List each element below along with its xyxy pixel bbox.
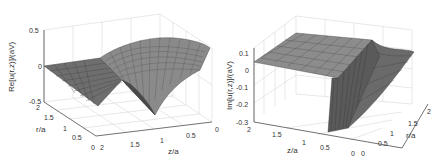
- r-tick: 2: [427, 108, 431, 115]
- z-tick: -0.1: [236, 84, 248, 91]
- z-tick: -0.2: [236, 101, 248, 108]
- r-tick: 0.5: [72, 134, 82, 141]
- im-surface-plot: 0.1 0 -0.1 -0.2 -0.3 Im[u(r,z)]/(aV) 2 1…: [220, 0, 440, 164]
- z-tick: 0.1: [239, 50, 249, 57]
- za-tick: 1.5: [272, 131, 282, 138]
- z-tick: 0: [38, 63, 42, 70]
- r-tick: 0.5: [378, 140, 388, 147]
- z-tick: 0.5: [29, 27, 39, 34]
- z-tick: 0: [245, 67, 249, 74]
- re-surface-plot: 0.5 0 -0.5 Re[u(r,z)]/(aV) 2 1.5 1 0.5 0…: [0, 0, 220, 164]
- r-axis-label: r/a: [36, 126, 45, 134]
- r-tick: 1.5: [44, 114, 54, 121]
- za-tick: 1: [160, 137, 164, 144]
- za-axis-label: z/a: [168, 148, 179, 156]
- za-tick: 0.5: [320, 144, 330, 151]
- za-tick: 1.5: [130, 141, 140, 148]
- r-tick: 2: [36, 104, 40, 111]
- r-tick: 1: [390, 130, 394, 137]
- za-tick: 2: [100, 144, 104, 151]
- r-tick: 0: [361, 150, 365, 157]
- r-tick: 1.5: [408, 120, 418, 127]
- r-axis-label: r/a: [406, 132, 415, 140]
- za-tick: 0.5: [186, 132, 196, 139]
- za-tick: 0: [215, 126, 219, 133]
- z-axis-label: Re[u(r,z)]/(aV): [8, 42, 16, 92]
- za-tick: 1: [302, 139, 306, 146]
- za-axis-label: z/a: [287, 147, 298, 155]
- z-tick: -0.3: [236, 119, 248, 126]
- re-surface-graphic: [0, 0, 220, 164]
- z-axis-label: Im[u(r,z)]/(aV): [226, 61, 234, 110]
- r-tick: 0: [91, 144, 95, 151]
- za-tick: 0: [351, 150, 355, 157]
- r-tick: 1: [63, 125, 67, 132]
- za-tick: 2: [247, 126, 251, 133]
